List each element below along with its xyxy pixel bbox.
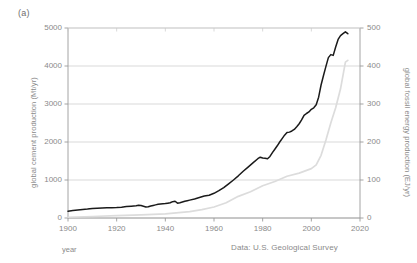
gridlines [68, 28, 360, 218]
x-axis-tick-label: 1920 [99, 224, 135, 233]
x-axis-tick-label: 1980 [245, 224, 281, 233]
left-axis-tick-label: 2000 [26, 137, 62, 146]
x-axis-tick-label: 2020 [342, 224, 378, 233]
left-axis-tick-label: 0 [26, 213, 62, 222]
series-line-fossil-energy [68, 60, 348, 217]
x-axis-tick-label: 1900 [50, 224, 86, 233]
right-axis-tick-label: 400 [367, 61, 397, 70]
left-axis-tick-label: 1000 [26, 175, 62, 184]
x-axis-tick-label: 1960 [196, 224, 232, 233]
left-axis-tick-label: 5000 [26, 23, 62, 32]
series-line-cement [68, 32, 348, 211]
x-axis-tick-label: 1940 [147, 224, 183, 233]
right-axis-tick-label: 300 [367, 99, 397, 108]
figure-panel: (a) global cement production (Mt/yr) glo… [0, 0, 417, 263]
x-axis-tick-label: 2000 [293, 224, 329, 233]
right-axis-tick-label: 0 [367, 213, 397, 222]
right-axis-tick-label: 500 [367, 23, 397, 32]
left-axis-tick-label: 4000 [26, 61, 62, 70]
left-axis-tick-label: 3000 [26, 99, 62, 108]
right-axis-tick-label: 200 [367, 137, 397, 146]
right-axis-tick-label: 100 [367, 175, 397, 184]
axis-frame [68, 28, 360, 218]
